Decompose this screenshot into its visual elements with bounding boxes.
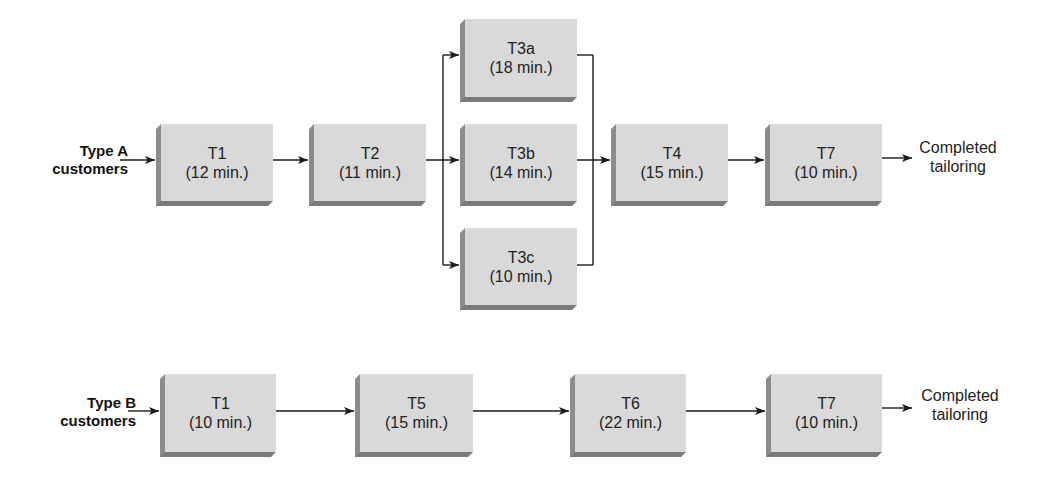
type-a-customers-label: Type A customers	[40, 142, 128, 178]
task-box-a-t7: T7 (10 min.)	[765, 124, 882, 206]
task-time: (10 min.)	[189, 413, 252, 432]
type-b-completed-label: Completed tailoring	[910, 386, 1010, 424]
task-name: T1	[211, 394, 230, 413]
task-box-b-t5: T5 (15 min.)	[355, 374, 473, 457]
task-name: T2	[361, 144, 380, 163]
task-box-a-t3a: T3a (18 min.)	[460, 19, 577, 102]
type-a-completed-label: Completed tailoring	[908, 138, 1008, 176]
task-name: T4	[663, 144, 682, 163]
task-time: (10 min.)	[489, 267, 552, 286]
task-box-b-t7: T7 (10 min.)	[766, 374, 882, 457]
task-box-a-t2: T2 (11 min.)	[309, 124, 426, 206]
task-time: (22 min.)	[599, 413, 662, 432]
task-name: T1	[208, 144, 227, 163]
task-time: (11 min.)	[339, 163, 401, 182]
task-name: T7	[817, 144, 836, 163]
task-time: (15 min.)	[640, 163, 703, 182]
sink-label-line2: tailoring	[930, 158, 986, 175]
task-time: (18 min.)	[489, 58, 552, 77]
task-box-a-t1: T1 (12 min.)	[156, 124, 273, 206]
source-label-line2: customers	[60, 412, 136, 429]
source-label-line1: Type A	[80, 142, 128, 159]
task-time: (10 min.)	[795, 413, 858, 432]
task-time: (12 min.)	[185, 163, 248, 182]
task-name: T3c	[508, 248, 535, 267]
task-box-a-t3c: T3c (10 min.)	[460, 228, 577, 310]
source-label-line1: Type B	[87, 394, 136, 411]
type-b-customers-label: Type B customers	[40, 394, 136, 430]
task-time: (15 min.)	[385, 413, 448, 432]
sink-label-line1: Completed	[921, 387, 998, 404]
task-box-a-t3b: T3b (14 min.)	[460, 124, 577, 206]
task-name: T3b	[507, 144, 535, 163]
task-name: T3a	[507, 39, 535, 58]
task-name: T5	[407, 394, 426, 413]
process-flow-diagram: Type A customers T1 (12 min.) T2 (11 min…	[0, 0, 1045, 481]
sink-label-line2: tailoring	[932, 406, 988, 423]
task-box-b-t6: T6 (22 min.)	[570, 374, 686, 457]
task-name: T6	[621, 394, 640, 413]
source-label-line2: customers	[52, 160, 128, 177]
task-box-a-t4: T4 (15 min.)	[611, 124, 728, 206]
sink-label-line1: Completed	[919, 139, 996, 156]
task-box-b-t1: T1 (10 min.)	[160, 374, 276, 457]
task-time: (14 min.)	[489, 163, 552, 182]
task-time: (10 min.)	[794, 163, 857, 182]
task-name: T7	[817, 394, 836, 413]
